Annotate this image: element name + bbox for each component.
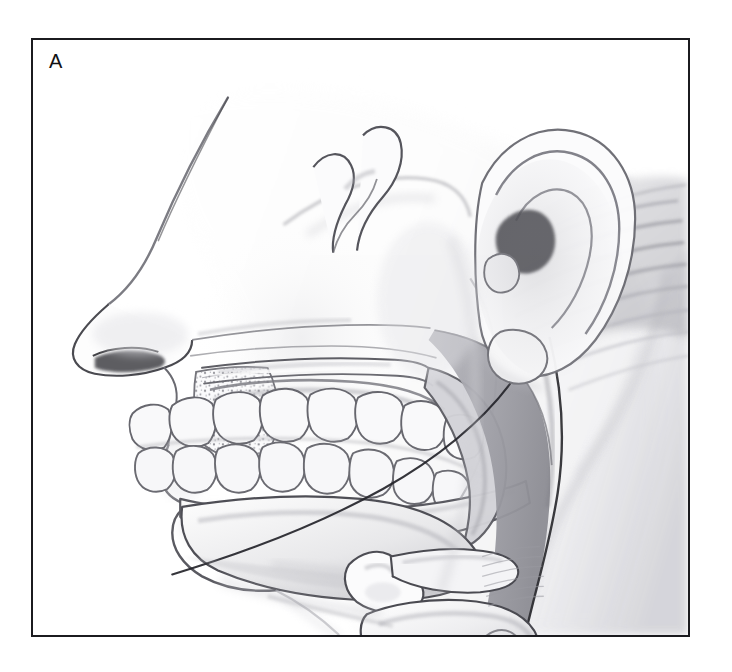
figure-panel-a: A xyxy=(31,38,690,637)
figure-root: A xyxy=(0,0,732,672)
panel-label: A xyxy=(49,51,63,71)
anatomical-illustration xyxy=(33,40,688,635)
